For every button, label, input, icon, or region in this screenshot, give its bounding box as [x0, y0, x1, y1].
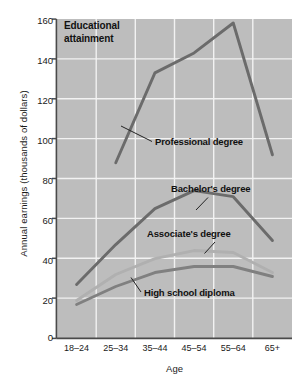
- annotation-high-school-diploma: High school diploma: [144, 287, 235, 298]
- y-axis-ticks: 160 140 120 100 80 60 40 20 0: [19, 0, 53, 385]
- y-tick-20: 20: [19, 296, 53, 306]
- x-tick-65plus: 65+: [265, 343, 280, 353]
- chart-title-line1: Educational: [64, 20, 120, 31]
- y-tick-80: 80: [19, 176, 53, 186]
- y-tick-100: 100: [19, 136, 53, 146]
- chart-title: Educational attainment: [64, 20, 120, 46]
- chart-figure: Annual earnings (thousands of dollars) 1…: [0, 0, 298, 385]
- x-tick-25-34: 25–34: [103, 343, 128, 353]
- x-tick-55-64: 55–64: [221, 343, 246, 353]
- x-axis-title: Age: [57, 363, 292, 374]
- x-tick-18-24: 18–24: [64, 343, 89, 353]
- chart-title-line2: attainment: [64, 33, 114, 44]
- annotation-bachelors-degree: Bachelor's degree: [171, 183, 250, 194]
- annotation-associates-degree: Associate's degree: [147, 228, 231, 239]
- y-tick-140: 140: [19, 56, 53, 66]
- y-tick-0: 0: [19, 333, 53, 343]
- y-tick-120: 120: [19, 96, 53, 106]
- x-tick-45-54: 45–54: [182, 343, 207, 353]
- y-tick-160: 160: [19, 16, 53, 26]
- x-tick-35-44: 35–44: [142, 343, 167, 353]
- y-tick-40: 40: [19, 256, 53, 266]
- annotation-professional-degree: Professional degree: [155, 136, 243, 147]
- y-tick-60: 60: [19, 216, 53, 226]
